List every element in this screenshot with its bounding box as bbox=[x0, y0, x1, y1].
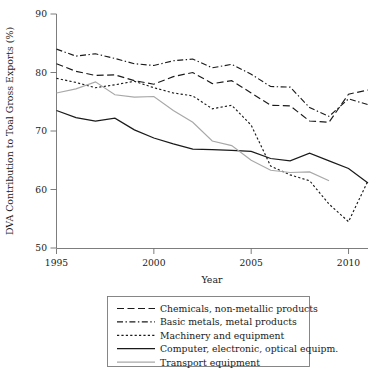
y-tick-label: 50 bbox=[35, 242, 47, 253]
legend-label-0: Chemicals, non-metallic products bbox=[160, 303, 318, 314]
x-tick-label: 2010 bbox=[337, 257, 361, 268]
legend: Chemicals, non-metallic productsBasic me… bbox=[108, 297, 339, 368]
x-tick-label: 1995 bbox=[45, 257, 69, 268]
series-line-4 bbox=[57, 82, 330, 181]
legend-entries: Chemicals, non-metallic productsBasic me… bbox=[117, 303, 338, 368]
legend-label-2: Machinery and equipment bbox=[160, 330, 284, 341]
x-axis-title: Year bbox=[201, 274, 224, 285]
x-tick-label: 2000 bbox=[142, 257, 166, 268]
legend-label-4: Transport equipment bbox=[160, 357, 260, 368]
legend-label-3: Computer, electronic, optical equipm. bbox=[160, 343, 338, 354]
y-tick-label: 90 bbox=[35, 8, 47, 19]
x-tick-group: 1995200020052010 bbox=[45, 249, 361, 269]
x-axis: 1995200020052010 Year bbox=[45, 249, 368, 286]
series-line-1 bbox=[57, 49, 369, 116]
y-tick-label: 60 bbox=[35, 184, 47, 195]
y-tick-label: 80 bbox=[35, 67, 47, 78]
chart-figure: 5060708090 DVA Contribution to Toal Gros… bbox=[0, 0, 374, 372]
chart-svg: 5060708090 DVA Contribution to Toal Gros… bbox=[0, 0, 374, 372]
y-axis-title: DVA Contribution to Toal Gross Exports (… bbox=[4, 27, 15, 235]
data-series-group bbox=[57, 49, 369, 222]
y-axis: 5060708090 DVA Contribution to Toal Gros… bbox=[4, 8, 57, 253]
y-tick-group: 5060708090 bbox=[35, 8, 56, 253]
x-tick-label: 2005 bbox=[239, 257, 263, 268]
y-tick-label: 70 bbox=[35, 125, 47, 136]
legend-label-1: Basic metals, metal products bbox=[160, 316, 297, 327]
